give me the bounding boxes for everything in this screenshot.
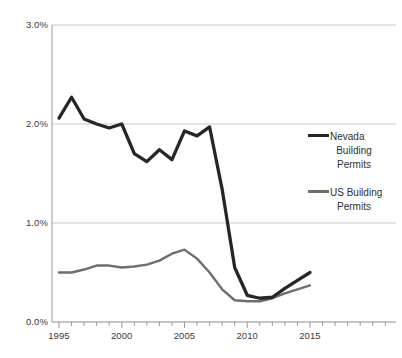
line-chart: 3.0%2.0%1.0%0.0% 19952000200520102015 Ne… bbox=[0, 0, 402, 358]
legend-label-nevada-line3: Permits bbox=[308, 158, 400, 172]
x-tick-label-2005: 2005 bbox=[165, 330, 205, 341]
series-line-nevada bbox=[59, 97, 310, 298]
legend-label-nevada-line2: Building bbox=[308, 144, 400, 158]
y-tick-label-2: 2.0% bbox=[14, 118, 48, 129]
x-tick-label-1995: 1995 bbox=[39, 330, 79, 341]
x-tick-label-2010: 2010 bbox=[227, 330, 267, 341]
x-tick-label-2015: 2015 bbox=[290, 330, 330, 341]
legend-swatch-us bbox=[308, 190, 329, 193]
legend-swatch-nevada bbox=[308, 134, 329, 137]
y-tick-label-3: 3.0% bbox=[14, 19, 48, 30]
data-series bbox=[59, 97, 310, 301]
x-tick-label-2000: 2000 bbox=[102, 330, 142, 341]
x-axis-ticks bbox=[59, 322, 385, 328]
legend-label-us-line2: Permits bbox=[308, 200, 400, 214]
y-tick-label-1: 1.0% bbox=[14, 217, 48, 228]
legend-label-us-line1: US Building bbox=[330, 187, 382, 198]
chart-legend: Nevada Building Permits US Building Perm… bbox=[308, 126, 400, 225]
legend-label-nevada-line1: Nevada bbox=[330, 131, 364, 142]
series-line-us bbox=[59, 250, 310, 301]
legend-item-nevada: Nevada Building Permits bbox=[308, 126, 400, 171]
y-tick-label-0: 0.0% bbox=[14, 316, 48, 327]
legend-item-us: US Building Permits bbox=[308, 182, 400, 214]
